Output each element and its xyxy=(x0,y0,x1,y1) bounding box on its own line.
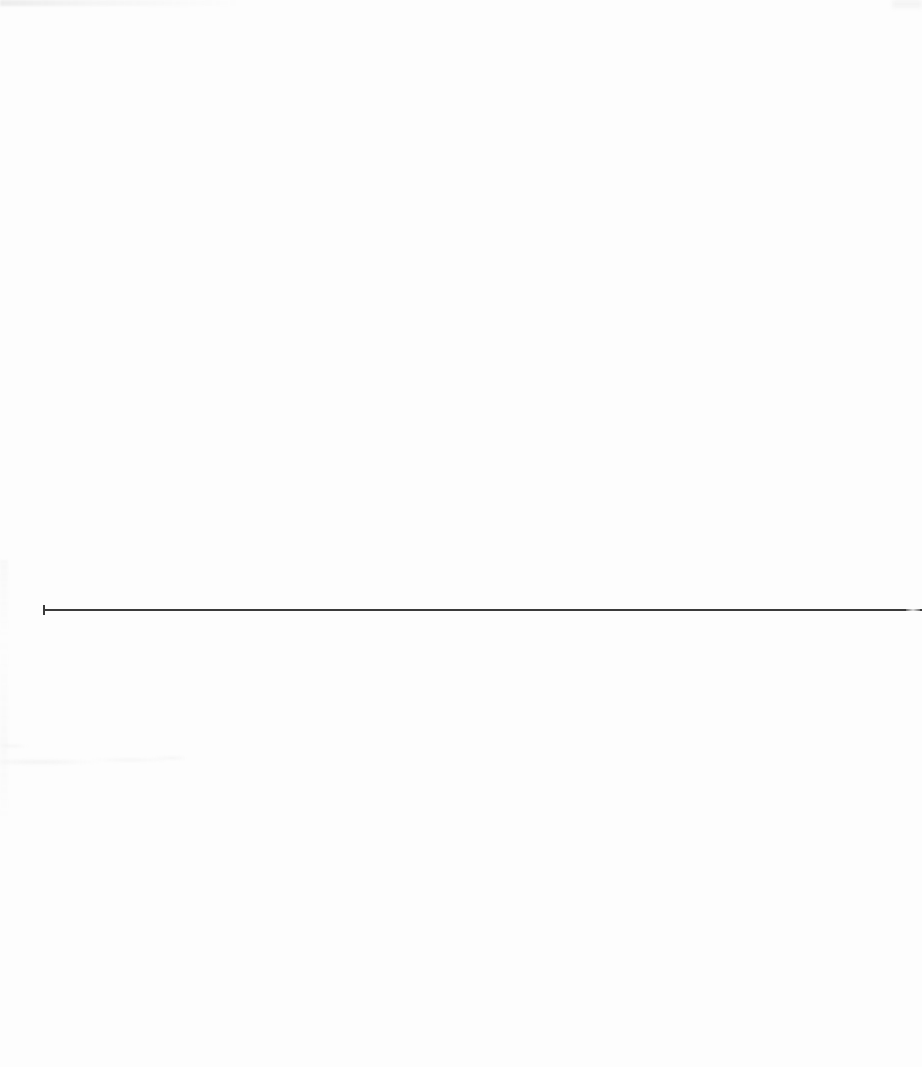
paper-grain-left-margin xyxy=(0,560,8,820)
rule-right-fade-spot xyxy=(906,603,920,617)
scanned-page xyxy=(0,0,922,1067)
horizontal-rule xyxy=(43,609,922,611)
rule-left-endcap xyxy=(43,605,45,615)
scan-artifact-top-right xyxy=(892,0,922,8)
scan-smudge-upper xyxy=(0,742,40,750)
scan-artifact-top-edge xyxy=(0,0,240,6)
scan-smudge-lower-left xyxy=(0,750,185,772)
